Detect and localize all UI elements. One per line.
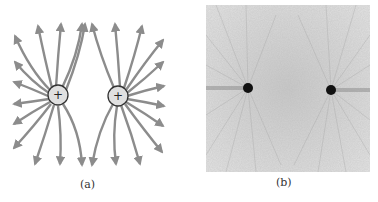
charge-left: + — [48, 85, 68, 105]
caption-a: (a) — [80, 178, 95, 191]
photo-svg — [206, 5, 370, 172]
field-lines-svg: + + — [0, 0, 190, 175]
field-pattern-photo — [206, 5, 370, 172]
svg-text:+: + — [113, 89, 123, 103]
charge-dot-right — [326, 85, 336, 95]
caption-b: (b) — [276, 176, 292, 189]
field-line-diagram: + + — [0, 0, 190, 175]
charge-dot-left — [243, 83, 253, 93]
charge-right: + — [108, 86, 128, 106]
svg-text:+: + — [53, 88, 63, 102]
